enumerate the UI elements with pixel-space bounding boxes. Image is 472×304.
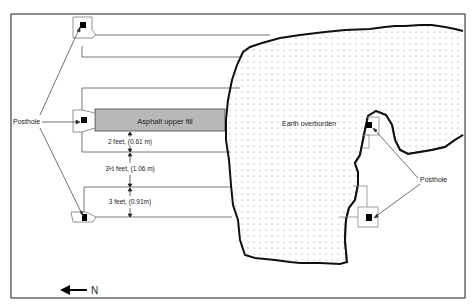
posthole-box-bottom-left: [71, 212, 96, 222]
north-arrow-icon: [60, 285, 87, 295]
posthole-leaders-left: [40, 27, 83, 216]
site-plan-diagram: Asphalt upper fill Earth overburden Post…: [0, 0, 472, 304]
earth-label: Earth overburden: [282, 120, 336, 127]
posthole-label-right: Posthole: [420, 176, 447, 183]
dimension-label-2: 3½ feet, (1.06 m): [105, 165, 155, 173]
dimension-label-3: 3 feet, (0.91m): [109, 198, 151, 206]
north-label: N: [91, 285, 98, 296]
asphalt-label: Asphalt upper fill: [137, 117, 193, 126]
posthole-label-left: Posthole: [13, 118, 40, 125]
dimension-label-1: 2 feet, (0.61 m): [108, 138, 152, 146]
